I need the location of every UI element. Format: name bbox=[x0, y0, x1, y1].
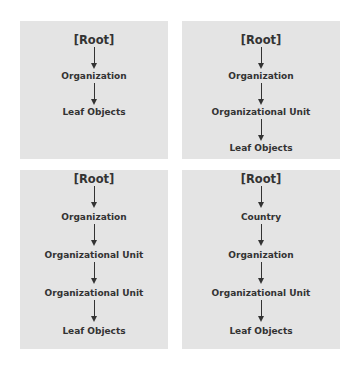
node-leaf-objects: Leaf Objects bbox=[229, 141, 292, 155]
hierarchy-panel-3: [Root] Organization Organizational Unit … bbox=[20, 170, 168, 349]
node-organizational-unit: Organizational Unit bbox=[45, 248, 144, 262]
node-leaf-objects: Leaf Objects bbox=[62, 105, 125, 119]
arrow-down-icon bbox=[256, 262, 266, 286]
arrow-down-icon bbox=[89, 47, 99, 69]
arrow-down-icon bbox=[89, 224, 99, 248]
arrow-down-icon bbox=[256, 224, 266, 248]
hierarchy-panel-1: [Root] Organization Leaf Objects bbox=[20, 21, 168, 159]
node-organization: Organization bbox=[228, 69, 293, 83]
node-organizational-unit: Organizational Unit bbox=[212, 105, 311, 119]
arrow-down-icon bbox=[256, 83, 266, 105]
node-country: Country bbox=[241, 210, 281, 224]
hierarchy-panel-2: [Root] Organization Organizational Unit … bbox=[182, 21, 340, 159]
node-organization: Organization bbox=[228, 248, 293, 262]
node-root: [Root] bbox=[241, 33, 282, 47]
arrow-down-icon bbox=[89, 186, 99, 210]
node-root: [Root] bbox=[74, 172, 115, 186]
arrow-down-icon bbox=[256, 300, 266, 324]
node-root: [Root] bbox=[74, 33, 115, 47]
hierarchy-panel-4: [Root] Country Organization Organization… bbox=[182, 170, 340, 349]
arrow-down-icon bbox=[89, 300, 99, 324]
node-root: [Root] bbox=[241, 172, 282, 186]
node-organizational-unit: Organizational Unit bbox=[212, 286, 311, 300]
arrow-down-icon bbox=[256, 47, 266, 69]
arrow-down-icon bbox=[89, 83, 99, 105]
node-organizational-unit: Organizational Unit bbox=[45, 286, 144, 300]
arrow-down-icon bbox=[89, 262, 99, 286]
node-organization: Organization bbox=[61, 69, 126, 83]
node-leaf-objects: Leaf Objects bbox=[229, 324, 292, 338]
node-organization: Organization bbox=[61, 210, 126, 224]
arrow-down-icon bbox=[256, 119, 266, 141]
arrow-down-icon bbox=[256, 186, 266, 210]
node-leaf-objects: Leaf Objects bbox=[62, 324, 125, 338]
